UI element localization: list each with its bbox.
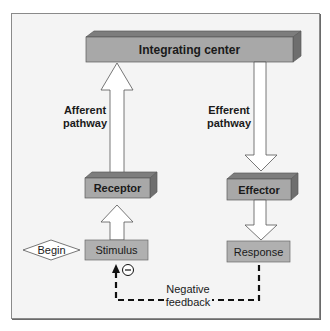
receptor-label: Receptor [85, 178, 150, 198]
stimulus-to-receptor-arrow [101, 205, 133, 240]
integrating-center-label: Integrating center [86, 37, 293, 62]
efferent-line1: Efferent [206, 104, 252, 117]
feedback-line1: Negative [164, 283, 212, 296]
feedback-arrowhead-icon [112, 264, 120, 273]
stimulus-label: Stimulus [85, 240, 148, 260]
efferent-pathway-label: Efferent pathway [206, 104, 252, 130]
minus-circle-icon [123, 265, 134, 276]
begin-label: Begin [23, 240, 80, 260]
effector-to-response-arrow [245, 200, 277, 240]
afferent-line1: Afferent [62, 104, 108, 117]
feedback-line2: feedback [164, 296, 212, 309]
negative-feedback-label: Negative feedback [164, 283, 212, 309]
response-label: Response [227, 241, 290, 262]
afferent-pathway-label: Afferent pathway [62, 104, 108, 130]
efferent-line2: pathway [206, 117, 252, 130]
afferent-line2: pathway [62, 117, 108, 130]
effector-label: Effector [227, 179, 291, 200]
